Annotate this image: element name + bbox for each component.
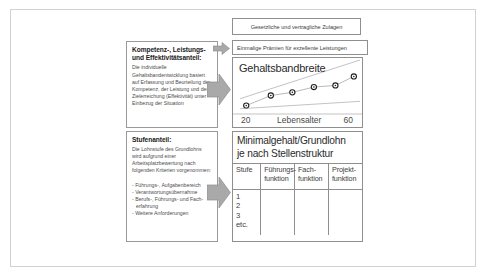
stufe-value: 3	[236, 211, 258, 220]
stufe-value: 2	[236, 201, 258, 210]
table-heading: Minimalgehalt/Grundlohn je nach Stellens…	[233, 132, 362, 164]
arrow-right-icon	[207, 176, 231, 209]
chart-panel-gehaltsbandbreite: Gehaltsbandbreite 20 Lebensalter 60	[232, 57, 363, 128]
x-axis-tick-max: 60	[344, 115, 353, 125]
arrow-right-icon	[213, 41, 230, 54]
strip-gesetzliche-zulagen: Gesetzliche und vertragliche Zulagen	[232, 18, 361, 35]
strip-einmalige-praemien: Einmalige Prämien für exzellente Leistun…	[232, 40, 368, 55]
table-panel-minimalgehalt: Minimalgehalt/Grundlohn je nach Stellens…	[232, 131, 363, 242]
x-axis-label: Lebensalter	[277, 115, 321, 125]
column-header-fachfunktion-line2: funktion	[298, 175, 326, 184]
table-heading-line2: je nach Stellenstruktur	[237, 148, 358, 161]
x-axis-tick-min: 20	[241, 115, 250, 125]
info-box-stufenanteil: Stufenanteil: Die Lohnstufe des Grundloh…	[126, 131, 218, 242]
diagram-canvas: Kompetenz-, Leistungs- und Effektivitäts…	[0, 0, 487, 278]
column-header-stufe-line1: Stufe	[236, 166, 258, 175]
table-row: 1 2 3 etc.	[233, 190, 362, 236]
column-header-fuehrungsfunktion: Führungs- funktion	[261, 164, 295, 190]
strip-gesetzliche-zulagen-label: Gesetzliche und vertragliche Zulagen	[251, 24, 343, 30]
fachfunktion-cell	[295, 190, 329, 236]
criteria-item: - Weitere Anforderungen	[132, 210, 212, 217]
info-box-kompetenz: Kompetenz-, Leistungs- und Effektivitäts…	[126, 41, 218, 128]
info-box-kompetenz-title: Kompetenz-, Leistungs- und Effektivitäts…	[132, 46, 212, 62]
info-box-stufenanteil-title: Stufenanteil:	[132, 136, 212, 144]
column-header-stufe: Stufe	[233, 164, 261, 190]
chart-x-axis: 20 Lebensalter 60	[233, 113, 362, 126]
fuehrungsfunktion-cell	[261, 190, 295, 236]
table-heading-line1: Minimalgehalt/Grundlohn	[237, 135, 358, 148]
table-header-row: Stufe Führungs- funktion Fach- funktion …	[233, 164, 362, 190]
column-header-projektfunktion: Projekt- funktion	[328, 164, 362, 190]
arrow-right-icon	[207, 73, 231, 106]
info-box-stufenanteil-body: Die Lohnstufe des Grundlohns wird aufgru…	[132, 146, 212, 174]
criteria-item: - Berufs-, Führungs- und Fach-	[132, 196, 212, 203]
projektfunktion-cell	[328, 190, 362, 236]
stufe-value: etc.	[236, 220, 258, 229]
chart-title: Gehaltsbandbreite	[239, 62, 326, 74]
criteria-item-continuation: erfahrung	[132, 203, 212, 210]
info-box-kompetenz-text: Die individuelle Gehaltsbandentwicklung …	[132, 64, 212, 107]
stellenstruktur-table: Stufe Führungs- funktion Fach- funktion …	[233, 164, 362, 235]
criteria-item: - Verantwortungsübernahme	[132, 189, 212, 196]
info-box-stufenanteil-text: Die Lohnstufe des Grundlohns wird aufgru…	[132, 146, 212, 174]
stufe-value: 1	[236, 192, 258, 201]
criteria-list: - Führungs-, Aufgabenbereich - Verantwor…	[132, 182, 212, 217]
stufe-values-cell: 1 2 3 etc.	[233, 190, 261, 236]
strip-einmalige-praemien-label: Einmalige Prämien für exzellente Leistun…	[237, 45, 347, 51]
info-box-kompetenz-body: Die individuelle Gehaltsbandentwicklung …	[132, 64, 212, 107]
column-header-projektfunktion-line2: funktion	[332, 175, 360, 184]
column-header-fuehrungsfunktion-line2: funktion	[264, 175, 292, 184]
column-header-fachfunktion: Fach- funktion	[295, 164, 329, 190]
criteria-item: - Führungs-, Aufgabenbereich	[132, 182, 212, 189]
